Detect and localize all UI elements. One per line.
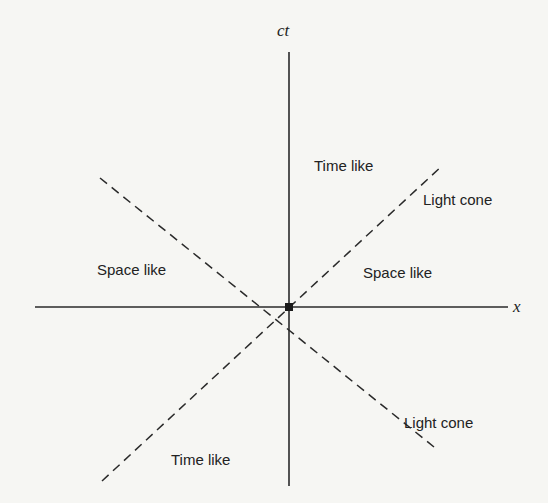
light-cone-line-descending <box>100 178 434 447</box>
light-cone-label-upper: Light cone <box>423 191 492 208</box>
region-label-past-time-like: Time like <box>171 451 230 468</box>
x-axis-label: x <box>513 297 521 317</box>
light-cone-label-lower: Light cone <box>404 414 473 431</box>
spacetime-diagram: ct x Time like Light cone Space like Spa… <box>0 0 548 503</box>
region-label-left-space-like: Space like <box>97 261 166 278</box>
region-label-right-space-like: Space like <box>363 264 432 281</box>
light-cone-line-ascending <box>102 165 443 481</box>
origin-event-point <box>285 303 293 311</box>
ct-axis-label: ct <box>277 21 289 41</box>
region-label-future-time-like: Time like <box>314 157 373 174</box>
